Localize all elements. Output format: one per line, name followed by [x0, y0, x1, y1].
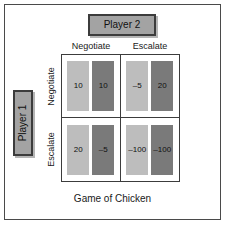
player2-payoff-bar: –100 [151, 125, 173, 175]
game-of-chicken-figure: Player 2 Player 1 Negotiate Escalate Neg… [0, 0, 226, 225]
player2-payoff-bar: 10 [92, 61, 114, 111]
row-player-label: Player 1 [18, 105, 28, 142]
figure-caption: Game of Chicken [4, 190, 221, 206]
player1-payoff-bar: –5 [126, 61, 148, 111]
column-player-box: Player 2 [88, 14, 156, 36]
column-header-escalate: Escalate [121, 39, 179, 52]
player1-payoff-value: 20 [74, 146, 83, 154]
player2-payoff-value: –100 [153, 146, 171, 154]
column-header-negotiate: Negotiate [62, 39, 120, 52]
row-header-escalate-text: Escalate [47, 132, 56, 167]
payoff-cell-escalate-negotiate: 20 –5 [62, 118, 121, 181]
player1-payoff-bar: –100 [126, 125, 148, 175]
payoff-cell-escalate-escalate: –100 –100 [121, 118, 180, 181]
column-player-label: Player 2 [104, 20, 141, 30]
player1-payoff-bar: 20 [67, 125, 89, 175]
player1-payoff-value: –5 [133, 82, 142, 90]
row-header-negotiate: Negotiate [44, 55, 58, 118]
player2-payoff-value: –5 [99, 146, 108, 154]
row-header-negotiate-text: Negotiate [47, 67, 56, 106]
payoff-matrix: 10 10 –5 20 20 –5 –100 [61, 54, 180, 182]
player2-payoff-bar: –5 [92, 125, 114, 175]
player2-payoff-value: 20 [158, 82, 167, 90]
player1-payoff-value: –100 [128, 146, 146, 154]
player2-payoff-bar: 20 [151, 61, 173, 111]
player1-payoff-bar: 10 [67, 61, 89, 111]
row-player-box: Player 1 [13, 90, 33, 156]
player1-payoff-value: 10 [74, 82, 83, 90]
payoff-cell-negotiate-negotiate: 10 10 [62, 55, 121, 118]
row-header-escalate: Escalate [44, 118, 58, 181]
player2-payoff-value: 10 [99, 82, 108, 90]
payoff-cell-negotiate-escalate: –5 20 [121, 55, 180, 118]
